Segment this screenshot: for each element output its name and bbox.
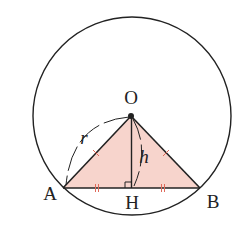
circle-chord-diagram: O A H B r h xyxy=(0,0,241,239)
label-b: B xyxy=(207,191,220,212)
label-a: A xyxy=(43,183,57,204)
label-h: H xyxy=(125,192,139,213)
label-h-measure: h xyxy=(139,146,149,167)
label-r: r xyxy=(80,127,88,148)
center-point-o xyxy=(128,113,134,119)
label-o: O xyxy=(124,87,138,108)
